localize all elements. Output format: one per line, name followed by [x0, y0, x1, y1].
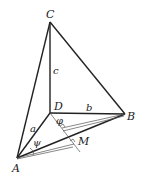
label-edge-b: b — [86, 102, 92, 113]
label-angle-phi: φ — [56, 115, 63, 126]
label-angle-psi: ψ — [33, 137, 41, 148]
label-c-vertex: C — [46, 8, 55, 21]
label-edge-a: a — [30, 123, 36, 134]
label-m-point: M — [77, 135, 90, 148]
projection-line-b — [62, 114, 125, 128]
label-edge-c: c — [53, 65, 59, 76]
projection-line-b2 — [63, 116, 124, 131]
label-d-vertex: D — [53, 100, 63, 113]
tetrahedron-diagram: C c D b B a φ ψ M A — [0, 0, 146, 178]
label-a-vertex: A — [11, 162, 20, 175]
edge-db — [50, 113, 125, 114]
projection-line-a2 — [17, 147, 73, 159]
label-b-vertex: B — [126, 110, 135, 123]
